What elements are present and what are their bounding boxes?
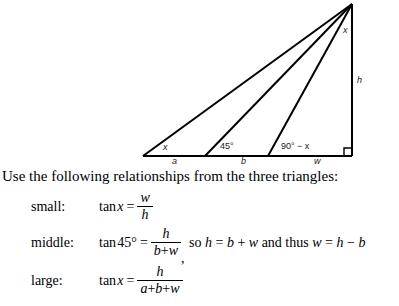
den-plus: + <box>161 243 169 258</box>
equation-tag-middle: middle: <box>31 236 74 250</box>
tan-argument: 45° <box>117 235 137 250</box>
den-term-w: w <box>170 281 179 296</box>
equation-tail-middle: so h = b + w and thus w = h − b <box>186 236 366 250</box>
base-segment-label-a: a <box>172 157 177 166</box>
fraction-h-over-b-plus-w: h b+w <box>151 227 181 258</box>
equals-sign: = <box>127 274 135 288</box>
tail-h-2: h <box>336 235 343 250</box>
tail-equals-1: = <box>216 235 224 250</box>
den-term-w: w <box>169 243 178 258</box>
tan-operator: tan <box>99 273 116 288</box>
equation-body-small: tan x = w h <box>99 188 153 226</box>
tail-plus: + <box>237 235 245 250</box>
equation-lhs-small: tan x <box>99 200 124 214</box>
tan-operator: tan <box>99 199 116 214</box>
tan-argument: x <box>117 273 123 288</box>
fraction-denominator: b+w <box>151 243 181 258</box>
equals-sign: = <box>140 236 148 250</box>
fraction-denominator: h <box>139 207 152 222</box>
fraction-numerator: h <box>159 227 172 242</box>
tail-w-2: w <box>312 235 321 250</box>
fraction-w-over-h: w h <box>137 191 152 222</box>
equation-row-middle: middle: tan 45° = h b+w , so h = b + w a… <box>0 224 399 262</box>
base-angle-label-x: x <box>163 143 168 152</box>
equation-row-large: large: tan x = h a+b+w <box>0 262 399 300</box>
diagram-figure: x h x 45° 90° − x a b w <box>0 0 399 166</box>
equation-body-large: tan x = h a+b+w <box>99 262 183 300</box>
equals-sign: = <box>127 200 135 214</box>
tan-operator: tan <box>99 235 116 250</box>
base-angle-label-90-minus-x: 90° − x <box>281 142 309 151</box>
triangle-diagram-svg <box>0 0 399 166</box>
fraction-numerator: w <box>137 191 152 206</box>
tail-b-2: b <box>358 235 365 250</box>
apex-angle-label: x <box>343 26 348 35</box>
base-segment-label-b: b <box>241 157 246 166</box>
base-segment-label-w: w <box>314 157 321 166</box>
equation-tag-large: large: <box>31 274 63 288</box>
hypotenuse-large <box>143 4 352 156</box>
tan-argument: x <box>117 199 123 214</box>
tail-minus: − <box>347 235 355 250</box>
den-term-b: b <box>154 243 161 258</box>
fraction-numerator: h <box>153 265 166 280</box>
fraction-denominator: a+b+w <box>137 281 182 296</box>
tail-h: h <box>205 235 212 250</box>
equation-row-small: small: tan x = w h <box>0 188 399 226</box>
right-angle-icon <box>344 148 352 156</box>
equation-tag-small: small: <box>31 200 65 214</box>
cevian-small <box>268 4 352 156</box>
equation-lhs-large: tan x <box>99 274 124 288</box>
tail-w: w <box>249 235 258 250</box>
intro-text: Use the following relationships from the… <box>2 168 338 185</box>
cevian-middle <box>205 4 352 156</box>
fraction-h-over-a-plus-b-plus-w: h a+b+w <box>137 265 182 296</box>
height-label: h <box>357 76 362 85</box>
tail-and-thus: and thus <box>262 235 309 250</box>
tail-b: b <box>227 235 234 250</box>
equation-body-middle: tan 45° = h b+w , so h = b + w and thus … <box>99 224 365 262</box>
tail-equals-2: = <box>325 235 333 250</box>
equation-lhs-middle: tan 45° <box>99 236 137 250</box>
tail-so: so <box>189 235 201 250</box>
base-angle-label-45: 45° <box>220 142 234 151</box>
